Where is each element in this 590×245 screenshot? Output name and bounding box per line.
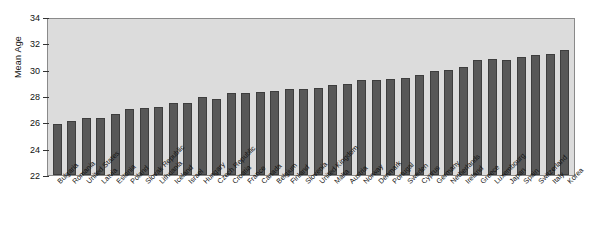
x-label-slot: Austria xyxy=(340,179,355,245)
x-label-slot: Canada xyxy=(253,179,268,245)
bar-slot xyxy=(268,19,283,175)
x-label-slot: Norway xyxy=(355,179,370,245)
bar-slot xyxy=(311,19,326,175)
bar-slot xyxy=(94,19,109,175)
bar-slot xyxy=(500,19,515,175)
y-tick-label: 34 xyxy=(20,13,40,23)
x-label-slot: Iceland xyxy=(166,179,181,245)
bar-slot xyxy=(282,19,297,175)
x-label-slot: Switzerland xyxy=(530,179,545,245)
x-label-slot: Croatia xyxy=(224,179,239,245)
y-tick-label: 30 xyxy=(20,66,40,76)
x-label-slot: Poland xyxy=(122,179,137,245)
bar-slot xyxy=(195,19,210,175)
x-label-slot: Japan xyxy=(500,179,515,245)
bar xyxy=(502,60,511,175)
y-tick-label: 26 xyxy=(20,118,40,128)
bar-slot xyxy=(369,19,384,175)
y-tick-label: 28 xyxy=(20,92,40,102)
bar xyxy=(53,124,62,175)
x-label-slot: Lithuania xyxy=(151,179,166,245)
bar xyxy=(488,59,497,175)
x-label-slot: Latvia xyxy=(93,179,108,245)
x-label-slot: Belgium xyxy=(267,179,282,245)
bar xyxy=(430,71,439,175)
x-label-slot: Romania xyxy=(64,179,79,245)
x-label-slot: United Kingdom xyxy=(311,179,326,245)
mean-age-bar-chart: Mean Age 22242628303234 BulgariaRomaniaU… xyxy=(0,0,590,245)
bar-slot xyxy=(123,19,138,175)
bar-slot xyxy=(543,19,558,175)
bar-slot xyxy=(137,19,152,175)
bar-slot xyxy=(529,19,544,175)
x-label-slot: Korea xyxy=(559,179,574,245)
bar-slot xyxy=(558,19,573,175)
bar-slot xyxy=(152,19,167,175)
bar-slot xyxy=(297,19,312,175)
plot-area: 22242628303234 xyxy=(47,18,575,176)
x-label-slot: Sweden xyxy=(399,179,414,245)
x-label-slot: Denmark xyxy=(369,179,384,245)
bar-slot xyxy=(442,19,457,175)
x-label-slot: United States xyxy=(78,179,93,245)
x-label-slot: Bulgaria xyxy=(49,179,64,245)
bar-slot xyxy=(224,19,239,175)
bar-slot xyxy=(65,19,80,175)
bar xyxy=(459,67,468,175)
bar-series xyxy=(48,19,574,175)
x-label-slot: Cyprus xyxy=(413,179,428,245)
bar-slot xyxy=(427,19,442,175)
bar xyxy=(444,70,453,175)
x-label-slot: Czech Republic xyxy=(209,179,224,245)
y-axis-title: Mean Age xyxy=(13,17,23,97)
x-label-slot: Greece xyxy=(471,179,486,245)
y-tick-label: 24 xyxy=(20,145,40,155)
y-tick-label: 22 xyxy=(20,171,40,181)
x-label-slot: Slovenia xyxy=(297,179,312,245)
x-label-slot: Luxembourg xyxy=(486,179,501,245)
bar-slot xyxy=(50,19,65,175)
x-label-slot: France xyxy=(238,179,253,245)
y-tick-label: 32 xyxy=(20,39,40,49)
bar xyxy=(357,80,366,175)
x-label-slot: Finland xyxy=(282,179,297,245)
x-label-slot: Netherlands xyxy=(442,179,457,245)
bar-slot xyxy=(326,19,341,175)
x-label-slot: Israel xyxy=(180,179,195,245)
x-label-slot: Malta xyxy=(326,179,341,245)
bar-slot xyxy=(79,19,94,175)
bar-slot xyxy=(398,19,413,175)
bar-slot xyxy=(471,19,486,175)
bar-slot xyxy=(413,19,428,175)
x-label-slot: Ireland xyxy=(457,179,472,245)
x-label-slot: Estonia xyxy=(107,179,122,245)
x-label-slot: Germany xyxy=(428,179,443,245)
x-label-slot: Hungary xyxy=(195,179,210,245)
bar xyxy=(546,54,555,175)
bar xyxy=(198,97,207,175)
y-tick-mark xyxy=(43,176,49,177)
bar-slot xyxy=(456,19,471,175)
x-label-slot: Italy xyxy=(544,179,559,245)
bar-slot xyxy=(384,19,399,175)
x-label-slot: Spain xyxy=(515,179,530,245)
x-label-slot: Portugal xyxy=(384,179,399,245)
x-label-slot: Slovak Republic xyxy=(136,179,151,245)
bar-slot xyxy=(485,19,500,175)
bar xyxy=(372,80,381,175)
x-axis-labels: BulgariaRomaniaUnited StatesLatviaEstoni… xyxy=(47,179,575,245)
bar xyxy=(531,55,540,175)
bar-slot xyxy=(210,19,225,175)
